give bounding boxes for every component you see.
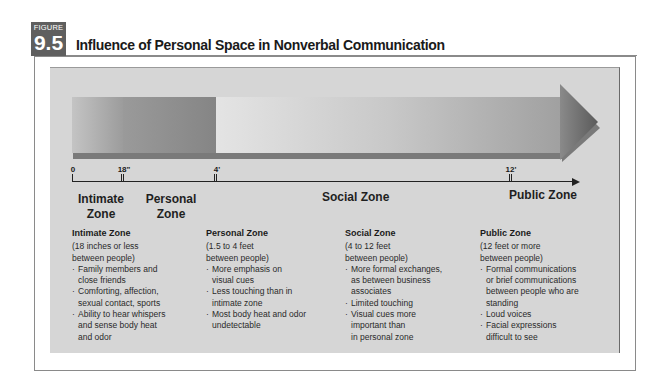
zone-range: (12 feet or more between people) xyxy=(480,241,605,264)
bullet-item: Less touching than in intimate zone xyxy=(206,286,331,309)
figure-badge: FIGURE 9.5 xyxy=(31,22,66,56)
bullet-item: Formal communications or brief communica… xyxy=(480,264,605,309)
bullet-item: More formal exchanges, as between busine… xyxy=(345,264,460,298)
zone-bullets: More emphasis on visual cues Less touchi… xyxy=(206,264,331,332)
bullet-item: Loud voices xyxy=(480,309,605,320)
bullet-item: Family members and close friends xyxy=(72,264,197,287)
zone-label-social: Social Zone xyxy=(322,190,432,205)
scale-arrow-icon xyxy=(572,178,580,186)
zone-description-personal: Personal Zone (1.5 to 4 feet between peo… xyxy=(206,228,331,332)
tick-label-12ft: 12' xyxy=(506,165,517,174)
tick-label-4ft: 4' xyxy=(214,165,220,174)
zone-range: (4 to 12 feet between people) xyxy=(345,241,460,264)
figure-number: 9.5 xyxy=(31,31,66,55)
bullet-item: Ability to hear whispers and sense body … xyxy=(72,309,197,343)
zone-bullets: More formal exchanges, as between busine… xyxy=(345,264,460,343)
zone-heading: Personal Zone xyxy=(206,228,331,239)
zone-heading: Intimate Zone xyxy=(72,228,197,239)
figure-title: Influence of Personal Space in Nonverbal… xyxy=(76,37,445,53)
zone-label-public: Public Zone xyxy=(509,188,609,203)
zone-bullets: Formal communications or brief communica… xyxy=(480,264,605,343)
zone-bullets: Family members and close friends Comfort… xyxy=(72,264,197,343)
tick-12ft xyxy=(509,174,512,182)
bar-arrowhead-icon xyxy=(560,84,600,162)
bullet-item: Comforting, affection, sexual contact, s… xyxy=(72,286,197,309)
zone-range: (18 inches or less between people) xyxy=(72,241,197,264)
zone-description-social: Social Zone (4 to 12 feet between people… xyxy=(345,228,460,343)
bar-segment-social-public xyxy=(216,97,562,153)
tick-4ft xyxy=(214,174,217,182)
bar-segment-intimate xyxy=(72,97,123,153)
tick-label-18in: 18" xyxy=(118,165,131,174)
distance-bar-shadow xyxy=(73,152,563,159)
distance-scale-line xyxy=(72,181,574,182)
zone-label-personal: Personal Zone xyxy=(140,192,202,222)
zone-range: (1.5 to 4 feet between people) xyxy=(206,241,331,264)
zone-description-intimate: Intimate Zone (18 inches or less between… xyxy=(72,228,197,343)
zone-heading: Social Zone xyxy=(345,228,460,239)
zone-description-public: Public Zone (12 feet or more between peo… xyxy=(480,228,605,343)
bullet-item: More emphasis on visual cues xyxy=(206,264,331,287)
bar-segment-personal xyxy=(123,97,216,153)
zone-heading: Public Zone xyxy=(480,228,605,239)
bullet-item: Facial expressions difficult to see xyxy=(480,320,605,343)
bullet-item: Visual cues more important than in perso… xyxy=(345,309,460,343)
bullet-item: Most body heat and odor undetectable xyxy=(206,309,331,332)
tick-0 xyxy=(72,174,73,182)
bullet-item: Limited touching xyxy=(345,298,460,309)
zone-label-intimate: Intimate Zone xyxy=(70,192,132,222)
tick-label-0: 0 xyxy=(71,165,75,174)
tick-18in xyxy=(121,174,124,182)
